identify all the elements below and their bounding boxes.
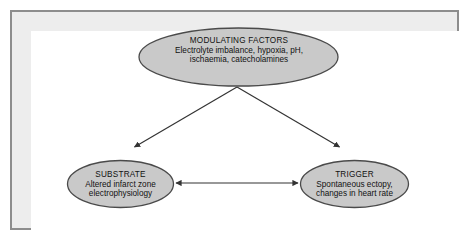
diagram-screenshot: MODULATING FACTORS Electrolyte imbalance… <box>0 0 474 244</box>
figure-frame <box>10 10 459 230</box>
diagram-canvas <box>31 31 462 233</box>
